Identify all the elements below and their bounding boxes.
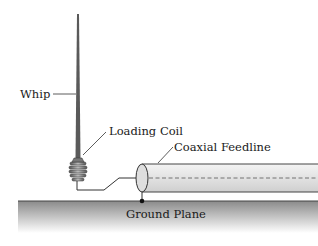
- coax-leader: [158, 147, 173, 163]
- coaxial-feedline: [136, 164, 318, 192]
- whip: [76, 14, 81, 158]
- loading-coil-label: Loading Coil: [109, 124, 183, 138]
- coaxial-feedline-label: Coaxial Feedline: [174, 140, 271, 154]
- antenna-diagram: Whip Loading Coil Coaxial Feedline Groun…: [0, 0, 318, 246]
- loading-coil: [69, 158, 87, 181]
- ground-connection: [140, 192, 145, 203]
- whip-label: Whip: [20, 87, 50, 101]
- coil-leader: [83, 132, 106, 155]
- feed-wire: [77, 178, 141, 190]
- ground-plane-label: Ground Plane: [126, 207, 206, 221]
